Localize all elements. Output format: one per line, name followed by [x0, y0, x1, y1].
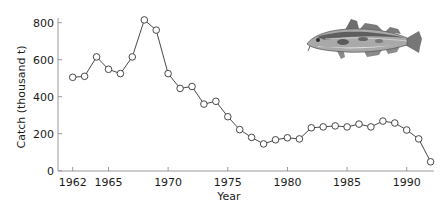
data-point-marker [296, 136, 303, 143]
data-point-marker [69, 74, 76, 81]
y-tick-label: 800 [33, 17, 54, 30]
y-tick-label: 200 [33, 128, 54, 141]
y-tick-label: 600 [33, 54, 54, 67]
data-point-marker [284, 135, 291, 142]
data-point-marker [153, 27, 160, 34]
x-tick-label: 1975 [214, 176, 242, 189]
data-point-marker [392, 120, 399, 127]
x-tick-label: 1965 [94, 176, 122, 189]
y-axis-title: Catch (thousand t) [15, 45, 28, 148]
data-point-marker [177, 85, 184, 92]
data-point-marker [427, 159, 434, 166]
data-point-marker [225, 113, 232, 120]
y-tick-label: 0 [47, 165, 54, 178]
data-point-marker [380, 118, 387, 125]
data-point-marker [141, 17, 148, 24]
x-ticks: 1962196519701975198019851990 [59, 167, 421, 189]
data-point-marker [105, 66, 112, 73]
data-point-marker [320, 124, 327, 131]
data-point-marker [344, 124, 351, 131]
data-point-marker [93, 54, 100, 61]
x-axis-title: Year [216, 190, 241, 203]
data-point-marker [260, 141, 267, 148]
y-tick-label: 400 [33, 91, 54, 104]
data-point-marker [213, 98, 220, 105]
data-point-marker [165, 70, 172, 77]
data-point-marker [272, 137, 279, 144]
data-point-marker [117, 70, 124, 77]
data-point-marker [368, 124, 375, 131]
x-tick-label: 1985 [333, 176, 361, 189]
data-point-marker [308, 125, 315, 132]
catch-line-chart: 0200400600800 19621965197019751980198519… [0, 0, 447, 210]
data-point-marker [236, 126, 243, 133]
data-point-marker [201, 101, 208, 108]
x-tick-label: 1970 [154, 176, 182, 189]
data-point-marker [189, 83, 196, 90]
data-point-marker [415, 136, 422, 143]
x-tick-label: 1962 [59, 176, 87, 189]
data-point-marker [403, 127, 410, 134]
data-point-marker [332, 123, 339, 130]
data-point-marker [248, 134, 255, 141]
data-point-marker [81, 73, 88, 80]
x-tick-label: 1980 [273, 176, 301, 189]
data-point-marker [129, 54, 136, 61]
cod-fish-icon [307, 19, 422, 59]
data-point-marker [356, 121, 363, 128]
x-tick-label: 1990 [393, 176, 421, 189]
